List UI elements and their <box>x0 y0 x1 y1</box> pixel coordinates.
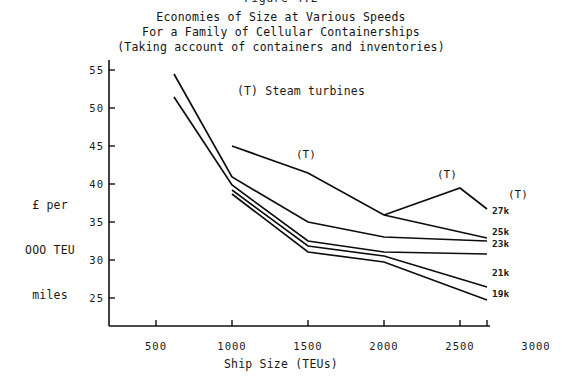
series-line-steam-turbine <box>384 188 487 215</box>
y-axis-ticks <box>109 70 115 298</box>
series-line-19k <box>232 194 487 300</box>
plot-svg <box>0 0 562 382</box>
series-lines <box>174 74 487 300</box>
series-line-23k <box>174 97 487 254</box>
x-axis-ticks <box>156 320 487 326</box>
series-line-21k <box>232 190 487 287</box>
series-line-25k <box>174 74 487 241</box>
figure-container: Figure 4.2 Economies of Size at Various … <box>0 0 562 382</box>
